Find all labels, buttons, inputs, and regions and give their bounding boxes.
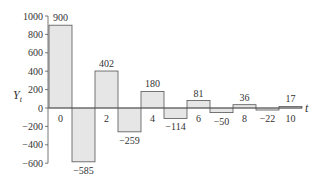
bar-value-label: 402: [99, 58, 114, 69]
x-tick-label: 4: [150, 113, 155, 124]
y-tick-label: −600: [22, 158, 43, 169]
y-tick-label: 200: [28, 84, 43, 95]
bar-value-label: 36: [240, 92, 250, 103]
y-tick-label: −400: [22, 139, 43, 150]
y-tick-label: 1000: [23, 11, 43, 22]
y-tick-label: 400: [28, 66, 43, 77]
bar-t7: [210, 108, 233, 113]
x-tick-label: 2: [104, 113, 109, 124]
y-tick-label: 0: [38, 103, 43, 114]
bar-value-label: −585: [73, 165, 94, 176]
bar-value-label: 180: [145, 78, 160, 89]
bar-value-label: −114: [165, 121, 185, 132]
y-axis: 10008006004002000−200−400−600: [22, 11, 48, 169]
bar-t2: [95, 71, 118, 108]
x-tick-label: 6: [196, 113, 201, 124]
bar-value-label: 81: [194, 88, 204, 99]
bar-value-label: −22: [260, 113, 276, 124]
bar-t5: [164, 108, 187, 118]
bar-value-label: 17: [286, 93, 296, 104]
x-tick-label: 10: [286, 113, 296, 124]
y-tick-label: 800: [28, 29, 43, 40]
bar-value-label: −50: [214, 116, 230, 127]
y-tick-label: 600: [28, 47, 43, 58]
bar-chart: 10008006004002000−200−400−600 0246810 90…: [0, 0, 318, 186]
bar-t4: [141, 91, 164, 108]
x-tick-label: 0: [58, 113, 63, 124]
bar-t6: [187, 101, 210, 108]
bar-t8: [233, 105, 256, 108]
bar-t0: [49, 25, 72, 108]
y-axis-label: Yt: [13, 88, 23, 104]
bars-group: [49, 25, 302, 162]
bar-value-label: 900: [53, 12, 68, 23]
bar-value-label: −259: [119, 135, 140, 146]
bar-t3: [118, 108, 141, 132]
x-tick-label: 8: [242, 113, 247, 124]
x-axis-label: t: [305, 101, 309, 115]
y-tick-label: −200: [22, 121, 43, 132]
bar-t1: [72, 108, 95, 162]
